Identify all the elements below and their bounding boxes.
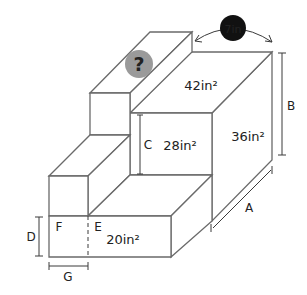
stepped-block-diagram: ? 7in 42in² 36in² 28in² 20in² A B C D E … bbox=[0, 0, 307, 295]
unknown-badge-text: ? bbox=[133, 53, 144, 75]
label-b: B bbox=[287, 99, 295, 113]
top-beam-front-face bbox=[90, 93, 130, 135]
top-face-area: 42in² bbox=[184, 78, 218, 93]
label-d: D bbox=[26, 230, 35, 244]
label-c: C bbox=[144, 138, 152, 152]
left-column-front-face bbox=[49, 176, 88, 216]
label-g: G bbox=[63, 270, 72, 284]
side-face-area: 36in² bbox=[231, 129, 265, 144]
label-a: A bbox=[245, 201, 254, 215]
width-badge-text: 7in bbox=[224, 23, 241, 36]
inner-front-face-area: 28in² bbox=[163, 138, 197, 153]
lower-front-face-area: 20in² bbox=[106, 232, 140, 247]
label-f: F bbox=[56, 220, 63, 234]
label-e: E bbox=[94, 220, 102, 234]
